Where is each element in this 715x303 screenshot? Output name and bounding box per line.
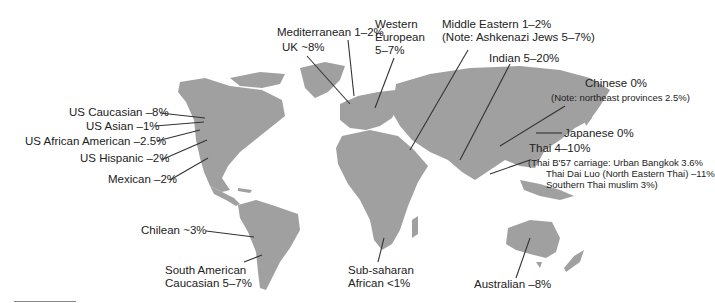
- label-subsaharan-line1: Sub-saharan: [348, 264, 414, 277]
- label-chinese-line2: (Note: northeast provinces 2.5%): [551, 92, 690, 104]
- label-us-caucasian: US Caucasian –8%: [69, 106, 169, 119]
- arctic-islands-landmass: [230, 72, 285, 88]
- label-japanese: Japanese 0%: [564, 127, 634, 140]
- label-western-line2: European: [375, 31, 425, 44]
- label-chilean: Chilean ~3%: [141, 224, 207, 237]
- label-middle-eastern: Middle Eastern 1–2% (Note: Ashkenazi Jew…: [442, 18, 595, 44]
- label-thai-line4: Southern Thai muslim 3%): [546, 179, 658, 191]
- label-us-asian: US Asian –1%: [86, 120, 160, 133]
- label-uk: UK ~8%: [282, 41, 325, 54]
- caribbean-islands: [238, 188, 252, 193]
- madagascar-landmass: [412, 216, 418, 238]
- greenland-landmass: [300, 62, 345, 98]
- label-subsaharan: Sub-saharan African <1%: [348, 264, 414, 290]
- label-subsaharan-line2: African <1%: [348, 277, 414, 290]
- label-western: Western European 5–7%: [375, 18, 425, 57]
- label-thai-line1: Thai 4–10%: [529, 142, 590, 155]
- label-mediterranean: Mediterranean 1–2%: [277, 26, 384, 39]
- tasmania-landmass: [536, 262, 542, 268]
- label-south-american-line2: Caucasian 5–7%: [165, 277, 252, 290]
- label-western-line1: Western: [375, 18, 425, 31]
- new-zealand-landmass: [564, 250, 584, 272]
- leader-mediterranean: [348, 40, 354, 96]
- north-america-landmass: [178, 78, 285, 192]
- label-chinese-line1: Chinese 0%: [585, 77, 647, 90]
- label-mexican: Mexican –2%: [108, 173, 177, 186]
- leader-chilean: [206, 231, 254, 237]
- label-us-hispanic: US Hispanic –2%: [80, 152, 169, 165]
- label-middle-eastern-line2: (Note: Ashkenazi Jews 5–7%): [442, 31, 595, 44]
- label-south-american-line1: South American: [165, 264, 252, 277]
- label-australian: Australian –8%: [474, 278, 551, 291]
- label-us-african-american: US African American –2.5%: [25, 135, 166, 148]
- australia-landmass: [506, 220, 560, 258]
- label-south-american: South American Caucasian 5–7%: [165, 264, 252, 290]
- label-western-line3: 5–7%: [375, 44, 425, 57]
- bottom-rule: [14, 301, 76, 302]
- label-middle-eastern-line1: Middle Eastern 1–2%: [442, 18, 595, 31]
- label-indian: Indian 5–20%: [489, 52, 559, 65]
